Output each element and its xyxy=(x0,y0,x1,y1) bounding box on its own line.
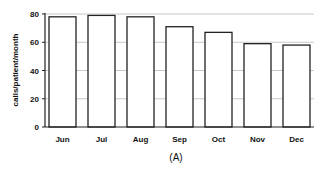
bar-jun xyxy=(49,17,76,127)
bar-oct xyxy=(205,32,232,127)
x-tick-label: Aug xyxy=(133,135,149,144)
bar-aug xyxy=(127,17,154,127)
y-tick-label: 60 xyxy=(30,38,39,47)
y-tick-label: 20 xyxy=(30,95,39,104)
bar-chart: 020406080 JunJulAugSepOctNovDec calls/pa… xyxy=(0,0,327,176)
y-tick-label: 80 xyxy=(30,10,39,19)
y-tick-label: 40 xyxy=(30,67,39,76)
y-tick-label: 0 xyxy=(35,123,40,132)
bars xyxy=(49,15,310,127)
x-tick-labels: JunJulAugSepOctNovDec xyxy=(55,135,304,144)
figure-caption: (A) xyxy=(169,152,182,163)
bar-dec xyxy=(283,45,310,127)
x-tick-label: Dec xyxy=(289,135,304,144)
x-tick-label: Jun xyxy=(55,135,69,144)
x-tick-label: Oct xyxy=(212,135,226,144)
y-axis-title: calls/patient/month xyxy=(11,33,20,106)
bar-nov xyxy=(244,44,271,127)
y-tick-labels: 020406080 xyxy=(30,10,45,132)
x-tick-label: Jul xyxy=(96,135,108,144)
bar-jul xyxy=(88,15,115,127)
bar-sep xyxy=(166,27,193,127)
x-tick-label: Sep xyxy=(172,135,187,144)
x-tick-label: Nov xyxy=(250,135,266,144)
